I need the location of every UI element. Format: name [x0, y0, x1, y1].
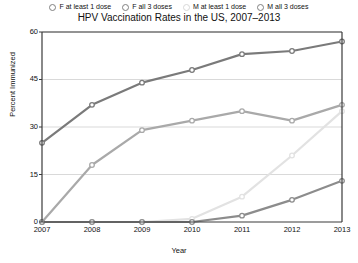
- data-point: [140, 128, 145, 133]
- data-point: [290, 153, 295, 158]
- series-line-0: [42, 42, 342, 143]
- chart-container: F at least 1 dose F all 3 doses M at lea…: [0, 0, 358, 263]
- data-point: [240, 213, 245, 218]
- series-line-3: [42, 181, 342, 222]
- data-point: [190, 118, 195, 123]
- data-point: [90, 103, 95, 108]
- data-point: [240, 52, 245, 57]
- data-point: [240, 109, 245, 114]
- data-point: [90, 163, 95, 168]
- series-line-2: [42, 111, 342, 222]
- data-point: [190, 68, 195, 73]
- data-point: [290, 49, 295, 54]
- chart-plot-area: [0, 0, 358, 263]
- data-point: [240, 194, 245, 199]
- data-point: [140, 80, 145, 85]
- data-point: [290, 198, 295, 203]
- data-point: [290, 118, 295, 123]
